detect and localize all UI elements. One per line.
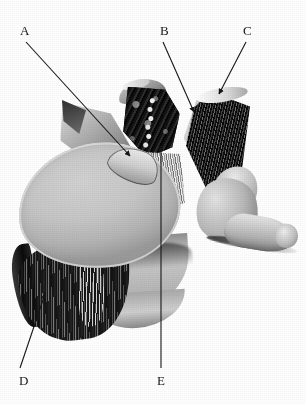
label-e: E bbox=[157, 374, 165, 387]
leader-line-overlay bbox=[0, 0, 306, 404]
leader-line-d bbox=[20, 294, 45, 368]
label-c: C bbox=[243, 24, 252, 37]
labeled-anatomy-figure: A B C D E bbox=[0, 0, 306, 404]
leader-line-a bbox=[26, 42, 130, 156]
label-d: D bbox=[19, 374, 28, 387]
leader-line-b bbox=[163, 42, 194, 112]
label-b: B bbox=[160, 24, 169, 37]
label-a: A bbox=[20, 24, 29, 37]
leader-line-c bbox=[219, 42, 246, 94]
